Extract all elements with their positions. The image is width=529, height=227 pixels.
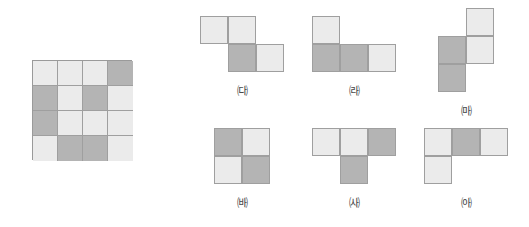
option-label-5: ㈔: [308, 198, 400, 209]
option-choice-6[interactable]: ㈕: [420, 128, 512, 214]
option-label-1: ㈐: [196, 86, 288, 97]
grid-cell-r3-c2: [83, 136, 108, 161]
option-shape-6: [424, 128, 508, 184]
grid-cell-r2-c3: [108, 111, 133, 136]
option-d-cell-1: [438, 36, 466, 64]
option-choice-1[interactable]: ㈐: [196, 16, 288, 112]
grid-cell-r3-c0: [33, 136, 58, 161]
option-r-cell-1: [242, 128, 270, 156]
option-m-cell-2: [368, 128, 396, 156]
option-m-cell-1: [340, 128, 368, 156]
option-b-cell-0: [424, 128, 452, 156]
option-choice-2[interactable]: ㈑: [308, 16, 400, 112]
option-label-4: ㈓: [196, 198, 288, 209]
main-pattern-grid: [32, 60, 132, 160]
option-label-6: ㈕: [420, 198, 512, 209]
grid-cell-r1-c1: [58, 86, 83, 111]
option-b-cell-1: [452, 128, 480, 156]
option-r-cell-2: [214, 156, 242, 184]
grid-cell-r1-c3: [108, 86, 133, 111]
option-choice-4[interactable]: ㈓: [196, 128, 288, 214]
grid-cell-r2-c1: [58, 111, 83, 136]
grid-cell-r0-c0: [33, 61, 58, 86]
option-g-cell-3: [256, 44, 284, 72]
option-r-cell-0: [214, 128, 242, 156]
option-g-cell-2: [228, 44, 256, 72]
option-g-cell-0: [200, 16, 228, 44]
option-choice-3[interactable]: ㈒: [420, 8, 512, 112]
option-n-cell-1: [312, 44, 340, 72]
option-label-2: ㈑: [308, 86, 400, 97]
option-b-cell-2: [480, 128, 508, 156]
option-b-cell-3: [424, 156, 452, 184]
option-d-cell-0: [466, 8, 494, 36]
grid-cell-r0-c3: [108, 61, 133, 86]
option-n-cell-0: [312, 16, 340, 44]
grid-cell-r1-c0: [33, 86, 58, 111]
option-shape-3: [438, 8, 494, 92]
grid-cell-r2-c0: [33, 111, 58, 136]
option-r-cell-3: [242, 156, 270, 184]
option-n-cell-2: [340, 44, 368, 72]
option-shape-5: [312, 128, 396, 184]
option-g-cell-1: [228, 16, 256, 44]
grid-cell-r2-c2: [83, 111, 108, 136]
option-d-cell-3: [438, 64, 466, 92]
option-choice-5[interactable]: ㈔: [308, 128, 400, 214]
option-shape-4: [214, 128, 270, 184]
option-m-cell-0: [312, 128, 340, 156]
option-shape-1: [200, 16, 284, 72]
grid-cell-r0-c1: [58, 61, 83, 86]
option-label-3: ㈒: [420, 106, 512, 117]
option-shape-2: [312, 16, 396, 72]
option-n-cell-3: [368, 44, 396, 72]
puzzle-figure: ㈐ ㈑ ㈒ ㈓ ㈔ ㈕: [0, 0, 529, 227]
grid-cell-r1-c2: [83, 86, 108, 111]
grid-cell-r3-c1: [58, 136, 83, 161]
grid-cell-r0-c2: [83, 61, 108, 86]
option-d-cell-2: [466, 36, 494, 64]
grid-cell-r3-c3: [108, 136, 133, 161]
option-m-cell-3: [340, 156, 368, 184]
